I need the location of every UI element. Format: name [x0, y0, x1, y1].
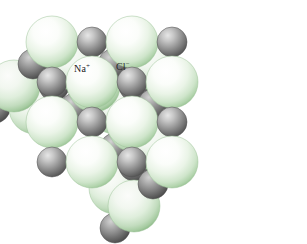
sodium-ion-sphere [37, 147, 67, 177]
chloride-ion-sphere [146, 56, 198, 108]
sodium-ion-sphere [117, 147, 147, 177]
chloride-ion-sphere [106, 16, 158, 68]
lattice-illustration [0, 0, 307, 244]
chloride-ion-sphere [106, 96, 158, 148]
chloride-ion-sphere [26, 96, 78, 148]
chloride-ion-sphere [66, 136, 118, 188]
chloride-ion-sphere [66, 56, 118, 108]
sodium-ion-sphere [37, 67, 67, 97]
nacl-lattice-figure: Na+ Cl− [0, 0, 307, 244]
chloride-ion-sphere [26, 16, 78, 68]
sodium-ion-sphere [77, 27, 107, 57]
lattice-spheres [0, 16, 198, 243]
sodium-ion-sphere [157, 107, 187, 137]
sodium-ion-sphere [117, 67, 147, 97]
chloride-ion-sphere [146, 136, 198, 188]
sodium-ion-sphere [157, 27, 187, 57]
sodium-ion-sphere [77, 107, 107, 137]
